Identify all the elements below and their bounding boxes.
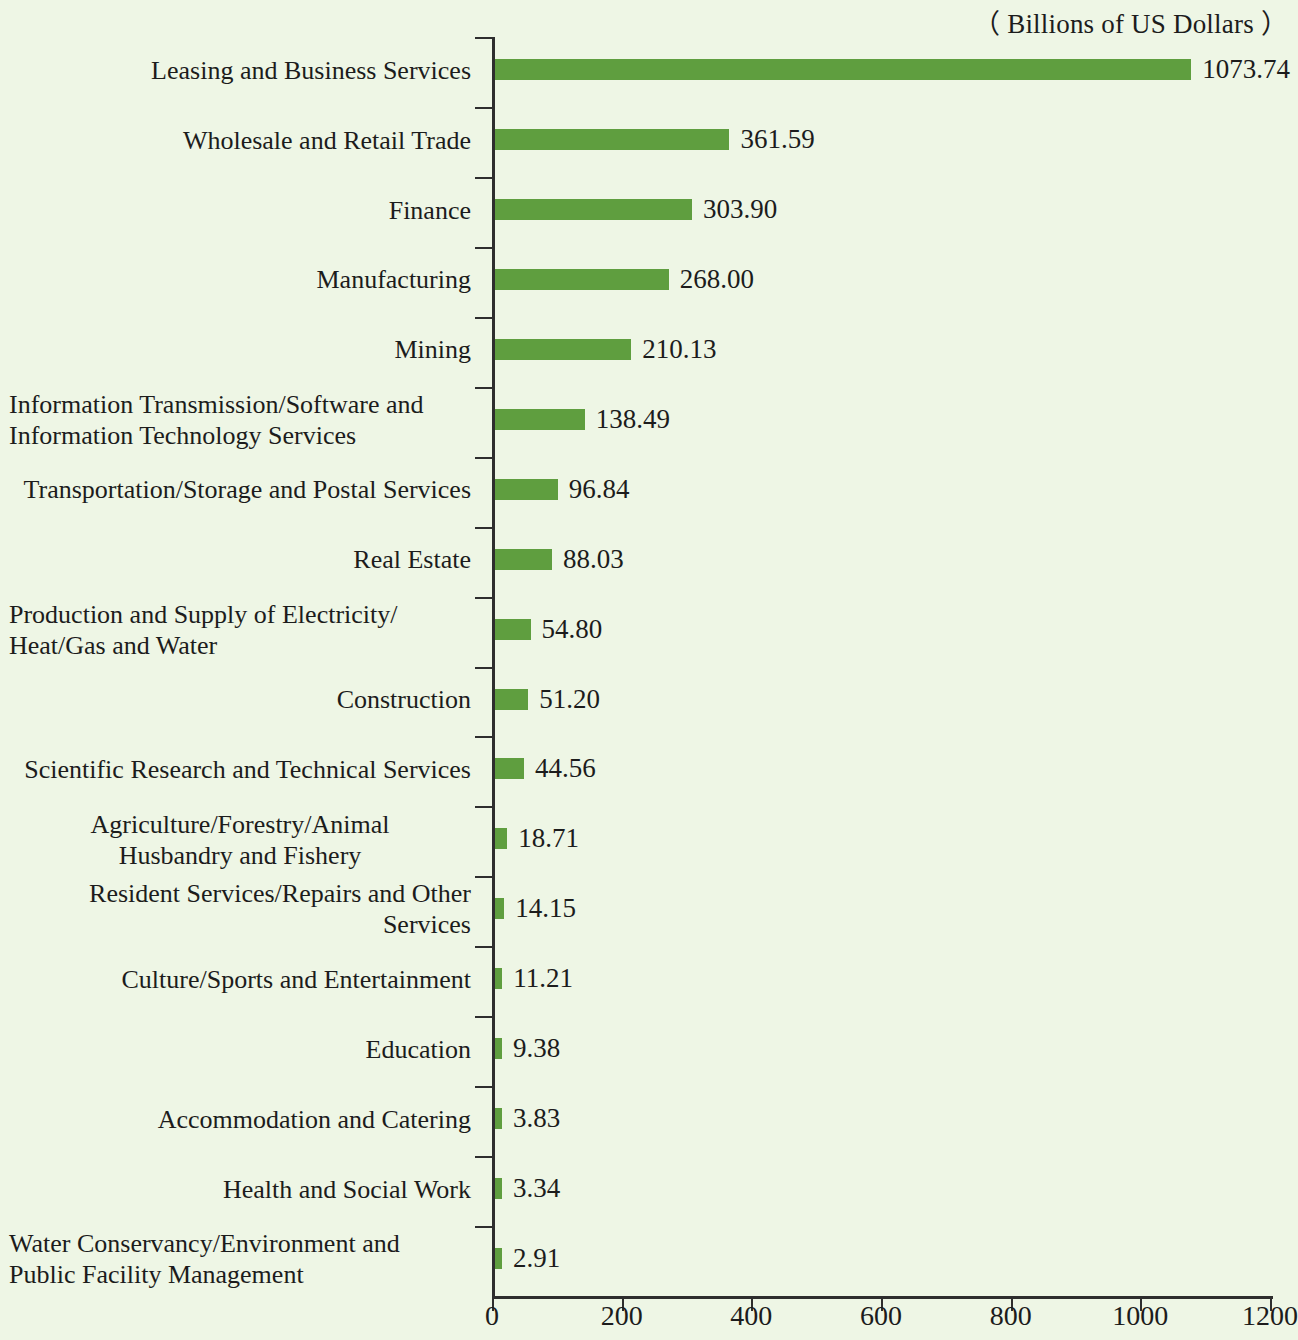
bar-value-label: 303.90 bbox=[703, 195, 777, 224]
chart-row: Transportation/Storage and Postal Servic… bbox=[492, 457, 1270, 523]
category-label: Production and Supply of Electricity/ He… bbox=[9, 597, 479, 663]
bar-value-label: 361.59 bbox=[740, 125, 814, 154]
x-axis-tick-label: 600 bbox=[821, 1300, 941, 1332]
chart-row: Wholesale and Retail Trade361.59 bbox=[492, 107, 1270, 173]
chart-row: Culture/Sports and Entertainment11.21 bbox=[492, 946, 1270, 1012]
chart-row: Resident Services/Repairs and Other Serv… bbox=[492, 876, 1270, 942]
bar bbox=[495, 59, 1191, 80]
x-axis-tick-label: 800 bbox=[951, 1300, 1071, 1332]
category-label: Culture/Sports and Entertainment bbox=[9, 946, 479, 1012]
category-label: Finance bbox=[9, 177, 479, 243]
chart-row: Construction51.20 bbox=[492, 667, 1270, 733]
chart-row: Production and Supply of Electricity/ He… bbox=[492, 597, 1270, 663]
bar bbox=[495, 619, 531, 640]
bar bbox=[495, 1038, 502, 1059]
bar-value-label: 138.49 bbox=[596, 405, 670, 434]
bar-value-label: 18.71 bbox=[518, 824, 579, 853]
bar-value-label: 268.00 bbox=[680, 265, 754, 294]
x-axis-tick-label: 1200 bbox=[1210, 1300, 1298, 1332]
bar bbox=[495, 758, 524, 779]
category-label: Construction bbox=[9, 667, 479, 733]
category-label: Resident Services/Repairs and Other Serv… bbox=[9, 876, 479, 942]
chart-row: Education9.38 bbox=[492, 1016, 1270, 1082]
chart-row: Information Transmission/Software and In… bbox=[492, 387, 1270, 453]
category-label: Mining bbox=[9, 317, 479, 383]
category-label: Manufacturing bbox=[9, 247, 479, 313]
bar-value-label: 54.80 bbox=[542, 615, 603, 644]
bar-value-label: 51.20 bbox=[539, 685, 600, 714]
bar-value-label: 1073.74 bbox=[1202, 55, 1290, 84]
category-label: Water Conservancy/Environment and Public… bbox=[9, 1226, 479, 1292]
x-axis-tick-label: 200 bbox=[562, 1300, 682, 1332]
category-label: Agriculture/Forestry/Animal Husbandry an… bbox=[9, 806, 479, 872]
bar bbox=[495, 689, 528, 710]
chart-row: Finance303.90 bbox=[492, 177, 1270, 243]
chart-row: Water Conservancy/Environment and Public… bbox=[492, 1226, 1270, 1292]
bar-value-label: 210.13 bbox=[642, 335, 716, 364]
category-label: Health and Social Work bbox=[9, 1156, 479, 1222]
bar bbox=[495, 129, 729, 150]
category-label: Information Transmission/Software and In… bbox=[9, 387, 479, 453]
bar-value-label: 88.03 bbox=[563, 545, 624, 574]
x-axis-tick-label: 0 bbox=[432, 1300, 552, 1332]
bar bbox=[495, 339, 631, 360]
bar-chart: （ Billions of US Dollars ） Leasing and B… bbox=[0, 0, 1298, 1340]
bar bbox=[495, 1178, 502, 1199]
bar-value-label: 3.34 bbox=[513, 1174, 560, 1203]
category-label: Wholesale and Retail Trade bbox=[9, 107, 479, 173]
chart-row: Health and Social Work3.34 bbox=[492, 1156, 1270, 1222]
chart-row: Agriculture/Forestry/Animal Husbandry an… bbox=[492, 806, 1270, 872]
category-label: Transportation/Storage and Postal Servic… bbox=[9, 457, 479, 523]
bar bbox=[495, 828, 507, 849]
bar-value-label: 3.83 bbox=[513, 1104, 560, 1133]
bar bbox=[495, 1248, 502, 1269]
bar bbox=[495, 409, 585, 430]
chart-row: Leasing and Business Services1073.74 bbox=[492, 37, 1270, 103]
category-label: Real Estate bbox=[9, 527, 479, 593]
chart-row: Scientific Research and Technical Servic… bbox=[492, 736, 1270, 802]
category-label: Education bbox=[9, 1016, 479, 1082]
chart-row: Accommodation and Catering3.83 bbox=[492, 1086, 1270, 1152]
units-note: （ Billions of US Dollars ） bbox=[973, 2, 1288, 41]
x-axis-tick-label: 400 bbox=[691, 1300, 811, 1332]
bar bbox=[495, 479, 558, 500]
bar bbox=[495, 968, 502, 989]
chart-row: Manufacturing268.00 bbox=[492, 247, 1270, 313]
bar-value-label: 2.91 bbox=[513, 1244, 560, 1273]
chart-row: Real Estate88.03 bbox=[492, 527, 1270, 593]
bar-value-label: 44.56 bbox=[535, 754, 596, 783]
bar bbox=[495, 549, 552, 570]
x-axis-tick-label: 1000 bbox=[1080, 1300, 1200, 1332]
chart-row: Mining210.13 bbox=[492, 317, 1270, 383]
bar bbox=[495, 199, 692, 220]
category-label: Leasing and Business Services bbox=[9, 37, 479, 103]
bar bbox=[495, 269, 669, 290]
category-label: Scientific Research and Technical Servic… bbox=[9, 736, 479, 802]
bar-value-label: 11.21 bbox=[513, 964, 573, 993]
plot-area: Leasing and Business Services1073.74Whol… bbox=[492, 37, 1270, 1296]
bar-value-label: 96.84 bbox=[569, 475, 630, 504]
bar-value-label: 14.15 bbox=[515, 894, 576, 923]
category-label: Accommodation and Catering bbox=[9, 1086, 479, 1152]
bar-value-label: 9.38 bbox=[513, 1034, 560, 1063]
bar bbox=[495, 1108, 502, 1129]
bar bbox=[495, 898, 504, 919]
